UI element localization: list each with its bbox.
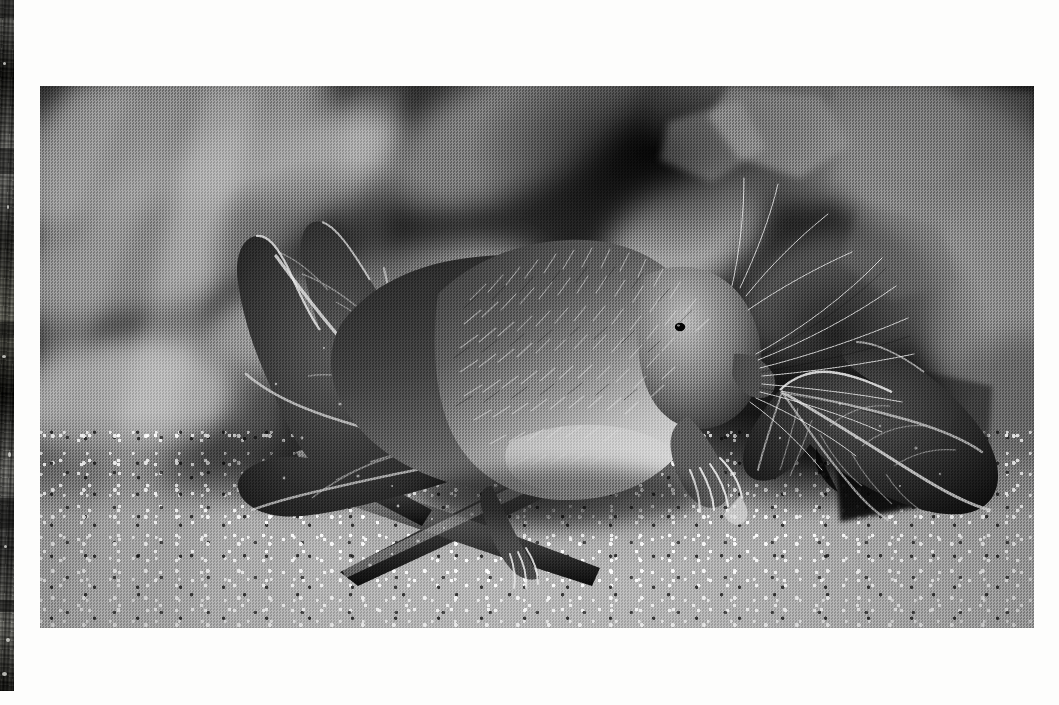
shrew-contact-shadow <box>420 466 700 526</box>
edge-strip-band <box>0 0 14 18</box>
edge-strip-speck <box>8 452 11 457</box>
shrew-eye <box>675 323 685 331</box>
edge-strip-speck <box>6 638 10 642</box>
edge-strip-band <box>0 322 14 338</box>
shrew-photograph <box>40 86 1034 628</box>
edge-strip-band <box>0 600 14 612</box>
adjacent-photo-edge-strip <box>0 0 14 691</box>
edge-strip-speck <box>4 545 7 548</box>
edge-strip-grain <box>0 0 14 691</box>
shrew-eye-catchlight <box>677 324 680 326</box>
edge-strip-speck <box>2 355 6 358</box>
edge-strip-band <box>0 148 14 174</box>
page-canvas <box>0 0 1059 705</box>
edge-strip-speck <box>7 205 9 209</box>
edge-strip-speck <box>3 62 6 65</box>
shrew-whiskers <box>732 178 914 470</box>
shrew-whiskers-dark <box>757 268 910 418</box>
shrew-head <box>637 267 761 429</box>
edge-strip-speck <box>2 672 7 676</box>
edge-strip-band <box>0 498 14 528</box>
shrew-animal <box>40 86 1034 628</box>
